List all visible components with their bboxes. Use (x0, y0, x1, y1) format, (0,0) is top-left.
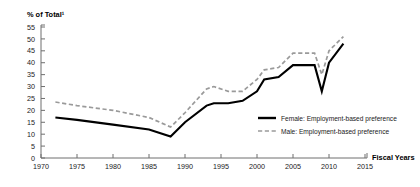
y-tick-label: 20 (27, 106, 35, 115)
line-chart: % of Total¹ 5550454035302520151050 19701… (0, 0, 420, 187)
x-tick-label: 2010 (321, 162, 337, 171)
y-axis-label: % of Total¹ (27, 10, 65, 19)
x-tick-label: 2005 (285, 162, 301, 171)
y-tick-label: 15 (27, 118, 35, 127)
x-tick-label: 1980 (105, 162, 121, 171)
x-tick-label: 1985 (141, 162, 157, 171)
chart-container: % of Total¹ 5550454035302520151050 19701… (0, 0, 420, 187)
y-tick-label: 45 (27, 46, 35, 55)
x-tick-label: 2000 (249, 162, 265, 171)
x-tick-label: 1970 (33, 162, 49, 171)
x-tick-label: 1990 (177, 162, 193, 171)
y-tick-label: 35 (27, 70, 35, 79)
legend-label-female: Female: Employment-based preference (281, 115, 397, 123)
y-tick-label: 50 (27, 35, 35, 44)
legend-label-male: Male: Employment-based preference (281, 128, 389, 136)
y-tick-label: 40 (27, 58, 35, 67)
y-tick-label: 10 (27, 130, 35, 139)
y-tick-label: 5 (31, 142, 35, 151)
y-tick-label: 55 (27, 23, 35, 32)
x-axis-ticks: 1970197519801985199019952000200520102015 (33, 154, 373, 171)
x-tick-label: 1975 (69, 162, 85, 171)
y-tick-label: 25 (27, 94, 35, 103)
x-tick-label: 1995 (213, 162, 229, 171)
y-tick-label: 30 (27, 82, 35, 91)
y-axis-ticks: 5550454035302520151050 (27, 23, 45, 163)
x-axis-title: Fiscal Years (372, 153, 415, 162)
x-tick-label: 2015 (357, 162, 373, 171)
chart-legend: Female: Employment-based preference Male… (258, 115, 397, 136)
series-line-male (55, 37, 343, 128)
series-line-female (55, 44, 343, 137)
